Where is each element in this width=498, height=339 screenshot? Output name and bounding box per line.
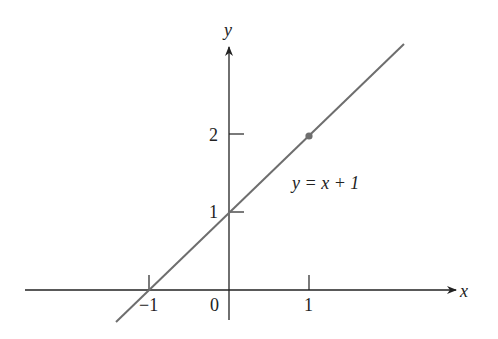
x-axis-label: x xyxy=(460,282,468,300)
y-tick-label-2: 2 xyxy=(209,126,218,144)
origin-label: 0 xyxy=(210,296,219,314)
y-axis-label: y xyxy=(224,21,232,39)
x-tick-label-neg1: −1 xyxy=(139,296,158,314)
equation-label: y = x + 1 xyxy=(292,174,359,192)
x-tick-label-1: 1 xyxy=(304,296,313,314)
function-line xyxy=(116,44,404,322)
graph-diagram: y x 2 1 −1 0 1 y = x + 1 xyxy=(0,0,498,339)
y-tick-label-1: 1 xyxy=(209,203,218,221)
graph-canvas xyxy=(0,0,498,339)
highlighted-point xyxy=(305,132,312,139)
